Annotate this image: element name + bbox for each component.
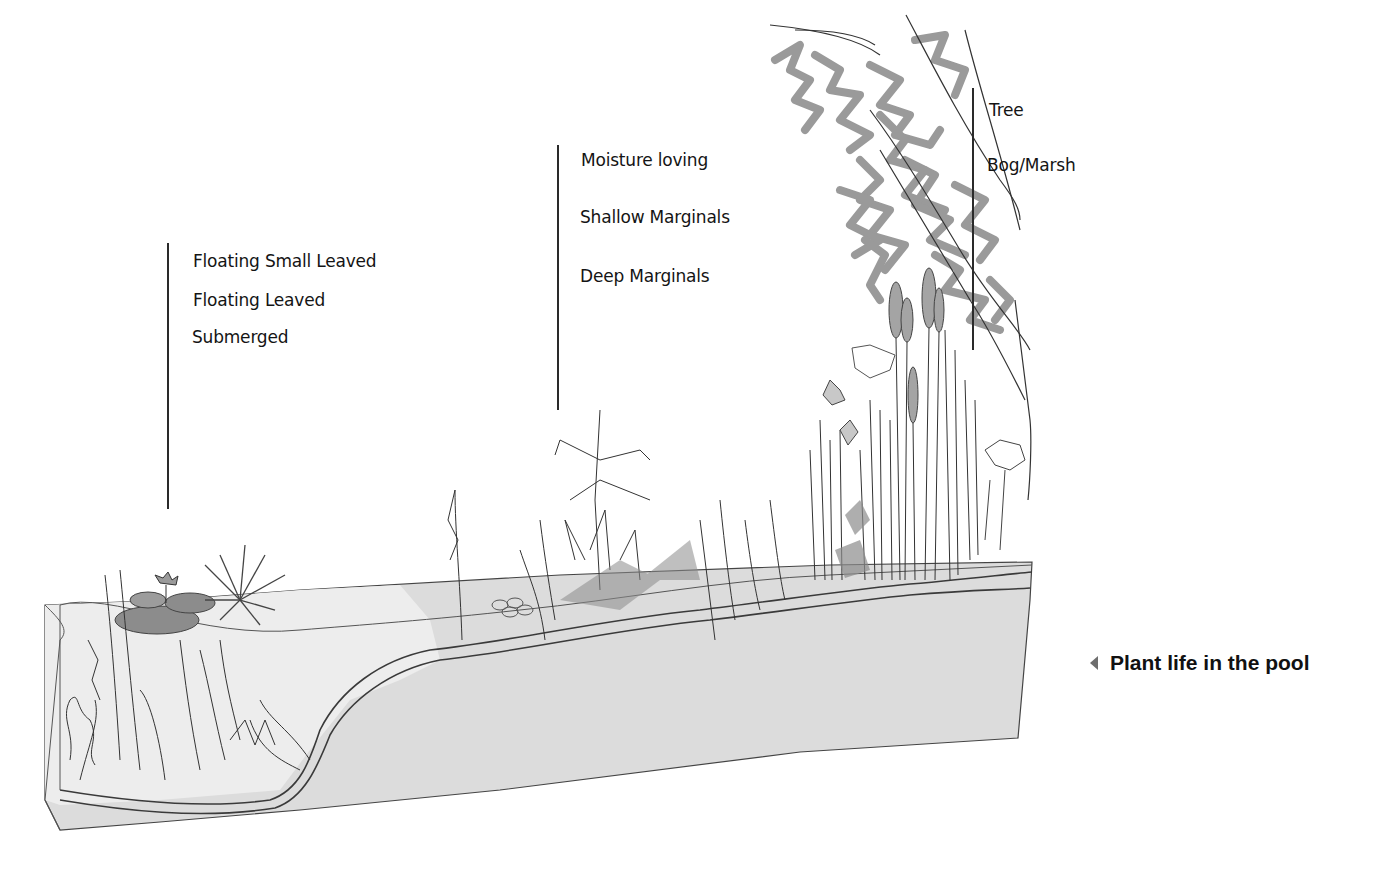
label-tree: Tree xyxy=(989,102,1024,119)
label-deep-marginals: Deep Marginals xyxy=(580,268,709,285)
figure-caption: Plant life in the pool xyxy=(1090,651,1310,675)
label-bog-marsh: Bog/Marsh xyxy=(987,157,1076,174)
bulrush-icon xyxy=(810,268,978,580)
label-floating-leaved: Floating Leaved xyxy=(193,292,325,309)
triangle-left-icon xyxy=(1090,656,1098,670)
caption-text: Plant life in the pool xyxy=(1110,651,1310,675)
bank-zone-bracket xyxy=(972,88,974,350)
margins-zone-bracket xyxy=(557,145,559,410)
label-shallow-marginals: Shallow Marginals xyxy=(580,209,730,226)
deep-water-zone-bracket xyxy=(167,243,169,509)
label-floating-small-leaved: Floating Small Leaved xyxy=(193,253,376,270)
label-submerged: Submerged xyxy=(192,329,288,346)
pond-cross-section-illustration xyxy=(0,0,1383,882)
label-moisture-loving: Moisture loving xyxy=(581,152,708,169)
